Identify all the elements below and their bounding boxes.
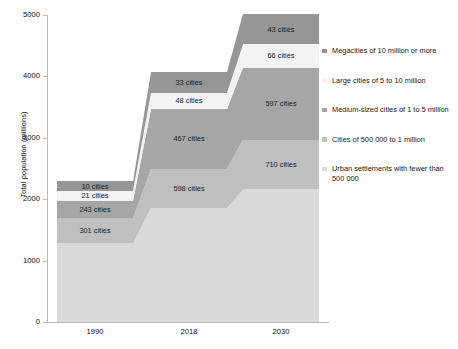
legend-item-label: Cities of 500 000 to 1 million [332,135,425,144]
bar-segment[interactable] [57,243,133,322]
bar-2018[interactable]: 598 cities467 cities48 cities33 cities [151,72,227,322]
flow-band [227,44,243,108]
y-axis-tick-label: 1000 [8,257,40,265]
legend-swatch-icon [322,49,327,54]
y-axis-tick-label: 0 [8,318,40,326]
legend-item[interactable]: Megacities of 10 million or more [322,46,458,56]
legend-swatch-icon [322,108,327,113]
x-axis-tick-label-2030: 2030 [236,327,326,336]
legend-item[interactable]: Urban settlements with fewer than 500 00… [322,164,458,183]
bar-segment[interactable] [243,189,319,322]
bar-segment[interactable]: 597 cities [243,68,319,140]
flow-band [227,189,243,322]
bar-2030[interactable]: 710 cities597 cities66 cities43 cities [243,14,319,322]
bar-segment[interactable]: 21 cities [57,191,133,201]
chart-container: Total population (millions) 010002000300… [0,0,458,349]
bar-segment[interactable]: 10 cities [57,181,133,190]
bar-segment[interactable]: 598 cities [151,169,227,208]
bar-segment[interactable] [151,208,227,322]
legend-swatch-icon [322,78,327,83]
y-axis-title: Total population (millions) [19,75,28,235]
bar-segment[interactable]: 43 cities [243,14,319,45]
bar-segment[interactable]: 301 cities [57,218,133,243]
y-axis-tick [43,322,48,323]
plot-area: 301 cities243 cities21 cities10 cities59… [47,15,329,322]
flow-band [227,67,243,168]
legend-swatch-icon [322,137,327,142]
legend-item-label: Medium-sized cities of 1 to 5 million [332,105,449,114]
bar-segment[interactable]: 66 cities [243,44,319,67]
flow-band [133,208,151,322]
legend: Megacities of 10 million or moreLarge ci… [322,46,458,203]
y-axis-tick-label: 5000 [8,11,40,19]
legend-item[interactable]: Cities of 500 000 to 1 million [322,135,458,145]
legend-item[interactable]: Large cities of 5 to 10 million [322,76,458,86]
bar-segment[interactable]: 710 cities [243,140,319,190]
bar-segment[interactable]: 243 cities [57,201,133,218]
flow-band [227,15,243,93]
bar-1990[interactable]: 301 cities243 cities21 cities10 cities [57,181,133,322]
flow-band [133,109,151,218]
bar-segment[interactable]: 467 cities [151,109,227,169]
flow-band [227,140,243,208]
y-axis-tick-label: 4000 [8,72,40,80]
legend-item-label: Megacities of 10 million or more [332,46,436,55]
legend-item-label: Large cities of 5 to 10 million [332,76,426,85]
flow-band [133,93,151,201]
x-axis-tick-label-2018: 2018 [144,327,234,336]
x-axis-tick-label-1990: 1990 [50,327,140,336]
x-axis-line [47,322,329,323]
bar-segment[interactable]: 33 cities [151,72,227,93]
y-axis-tick-label: 3000 [8,134,40,142]
y-axis-tick-label: 2000 [8,195,40,203]
flow-band [133,72,151,191]
legend-item[interactable]: Medium-sized cities of 1 to 5 million [322,105,458,115]
flow-band [133,169,151,244]
bar-segment[interactable]: 48 cities [151,93,227,109]
legend-item-label: Urban settlements with fewer than 500 00… [332,164,444,183]
legend-swatch-icon [322,167,327,172]
